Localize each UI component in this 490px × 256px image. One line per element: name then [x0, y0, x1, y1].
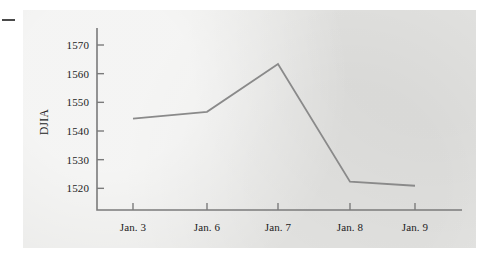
series-group: [133, 64, 415, 186]
x-tick-label-3: Jan. 8: [337, 221, 363, 233]
y-axis-title: DJIA: [38, 109, 50, 135]
tick-marks: [97, 45, 415, 210]
y-tick-label-1570: 1570: [47, 39, 89, 51]
axis-lines: [97, 28, 462, 210]
page-background: 152015301540155015601570 Jan. 3Jan. 6Jan…: [0, 0, 490, 256]
x-tick-label-0: Jan. 3: [120, 221, 146, 233]
y-tick-label-1540: 1540: [47, 125, 89, 137]
y-tick-label-1560: 1560: [47, 68, 89, 80]
y-tick-label-1520: 1520: [47, 182, 89, 194]
x-tick-label-1: Jan. 6: [194, 221, 220, 233]
series-line-djia: [133, 64, 415, 186]
y-tick-label-1550: 1550: [47, 96, 89, 108]
x-tick-label-2: Jan. 7: [265, 221, 291, 233]
x-tick-label-4: Jan. 9: [402, 221, 428, 233]
y-tick-label-1530: 1530: [47, 154, 89, 166]
chart-axes: [97, 28, 462, 210]
